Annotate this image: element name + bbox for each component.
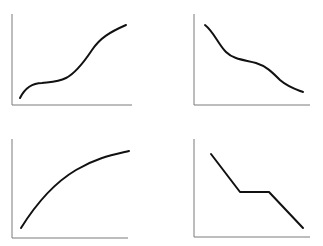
panel-top-right <box>194 14 310 105</box>
axes-top-left <box>12 14 132 105</box>
panel-bottom-left <box>12 139 129 238</box>
axes-bottom-left <box>12 139 128 238</box>
axes-top-right <box>194 14 310 105</box>
curve-bottom-right <box>211 154 303 228</box>
curve-top-right <box>205 25 303 92</box>
curve-top-left <box>20 25 126 98</box>
figure-canvas <box>0 0 323 246</box>
graphs-svg <box>0 0 323 246</box>
panel-bottom-right <box>194 139 310 237</box>
panel-top-left <box>12 14 132 105</box>
curve-bottom-left <box>21 151 129 228</box>
